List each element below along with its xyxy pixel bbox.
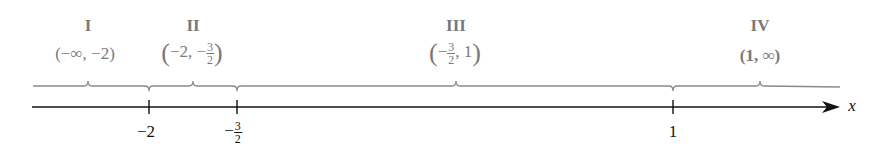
open-paren: ( xyxy=(161,38,170,67)
close-paren: ) xyxy=(472,38,481,67)
region-label-III: III xyxy=(446,16,466,36)
region-label-I: I xyxy=(85,16,92,36)
tick-label-neg2: −2 xyxy=(137,122,155,142)
interval-text: , 1 xyxy=(455,42,472,61)
close-paren: ) xyxy=(214,38,223,67)
region-interval-III: (−32, 1) xyxy=(429,38,481,68)
denominator: 2 xyxy=(234,133,242,145)
tick-label-neg3-2: −32 xyxy=(224,120,242,145)
fraction: 32 xyxy=(206,41,214,66)
region-label-II: II xyxy=(186,16,199,36)
numerator: 3 xyxy=(206,41,214,54)
axis-variable-label: x xyxy=(848,96,856,116)
region-interval-II: (−2, −32) xyxy=(161,38,223,68)
region-brace xyxy=(33,81,840,91)
fraction: 32 xyxy=(234,120,242,145)
tick-label-1: 1 xyxy=(669,122,678,142)
region-interval-IV: (1, ∞) xyxy=(740,46,780,66)
denominator: 2 xyxy=(206,54,214,66)
region-label-IV: IV xyxy=(751,16,770,36)
interval-text: −2, − xyxy=(170,42,206,61)
region-interval-I: (−∞, −2) xyxy=(55,44,115,64)
minus-sign: − xyxy=(438,42,448,61)
open-paren: ( xyxy=(429,38,438,67)
minus-sign: − xyxy=(224,121,234,140)
